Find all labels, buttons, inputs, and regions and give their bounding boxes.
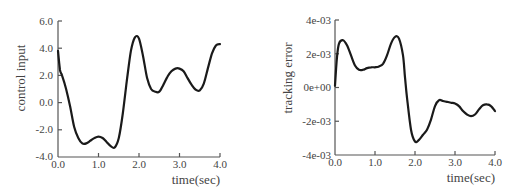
x-tick-labels: 0.0 1.0 2.0 3.0 4.0 — [51, 158, 227, 170]
y-axis-title: tracking error — [280, 42, 295, 114]
y-tick-label: 0e+00 — [303, 81, 331, 93]
x-tick-label: 3.0 — [173, 158, 187, 170]
y-tick-label: 6.0 — [39, 15, 53, 27]
y-tick-label: -2.0 — [36, 123, 54, 135]
x-tick-label: 1.0 — [92, 158, 106, 170]
x-tick-label: 1.0 — [368, 156, 382, 168]
tracking-error-chart: tracking error 4e-03 2e-03 0e+00 -2e-03 … — [258, 0, 515, 194]
control-input-curve — [58, 36, 220, 148]
y-tick-label: 4.0 — [39, 42, 53, 54]
x-tick-label: 0.0 — [51, 158, 65, 170]
y-axis-title: control input — [13, 44, 28, 111]
y-tick-label: -4e-03 — [302, 149, 331, 161]
x-axis-title: time(sec) — [447, 170, 495, 185]
y-tick-label: 2.0 — [39, 69, 53, 81]
tracking-error-plot: tracking error 4e-03 2e-03 0e+00 -2e-03 … — [258, 0, 515, 194]
x-tick-label: 4.0 — [488, 156, 502, 168]
x-tick-label: 3.0 — [448, 156, 462, 168]
y-tick-labels: 4e-03 2e-03 0e+00 -2e-03 -4e-03 — [302, 14, 331, 161]
y-tick-label: 2e-03 — [306, 48, 332, 60]
x-axis-title: time(sec) — [172, 172, 220, 187]
y-tick-labels: 6.0 4.0 2.0 0.0 -2.0 -4.0 — [36, 15, 54, 162]
control-input-plot: control input 6.0 4.0 2.0 0.0 -2.0 -4.0 — [0, 0, 258, 194]
y-tick-label: -2e-03 — [302, 115, 331, 127]
x-tick-label: 2.0 — [408, 156, 422, 168]
x-tick-labels: 0.0 1.0 2.0 3.0 4.0 — [328, 156, 502, 168]
control-input-chart: control input 6.0 4.0 2.0 0.0 -2.0 -4.0 — [0, 0, 258, 194]
axes — [335, 20, 495, 155]
tracking-error-curve — [335, 36, 495, 142]
y-tick-label: 4e-03 — [306, 14, 332, 26]
x-tick-label: 0.0 — [328, 156, 342, 168]
x-tick-label: 2.0 — [132, 158, 146, 170]
y-tick-label: 0.0 — [39, 96, 53, 108]
x-tick-label: 4.0 — [213, 158, 227, 170]
